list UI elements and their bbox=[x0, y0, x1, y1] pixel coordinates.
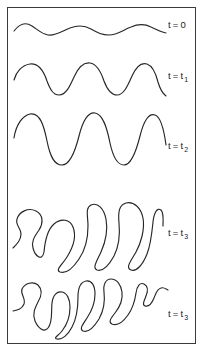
time-label-t2: t=t2 bbox=[168, 141, 188, 153]
figure-root: t=0 t=t1 t=t2 t=t3 t=t3 bbox=[0, 0, 205, 352]
figure-border-frame bbox=[7, 7, 196, 344]
time-label-t1: t=t1 bbox=[168, 71, 188, 83]
time-label-subscript: 1 bbox=[184, 76, 188, 83]
time-label-subscript: 2 bbox=[184, 146, 188, 153]
time-label-subscript: 3 bbox=[184, 233, 188, 240]
time-label-t4: t=t3 bbox=[168, 309, 188, 321]
time-label-subscript: 3 bbox=[184, 314, 188, 321]
time-label-t0: t=0 bbox=[168, 20, 186, 30]
time-label-t3: t=t3 bbox=[168, 228, 188, 240]
time-label-value: 0 bbox=[180, 19, 186, 30]
